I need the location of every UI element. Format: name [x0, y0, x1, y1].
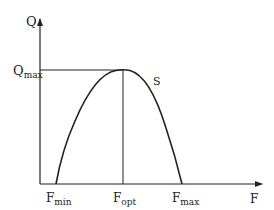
fmax-label: Fmax: [172, 191, 199, 207]
fmin-label: Fmin: [46, 191, 72, 207]
fopt-label: Fopt: [113, 191, 137, 207]
y-axis-label: Q: [26, 14, 37, 29]
curve-label-s: S: [153, 75, 161, 88]
qmax-label: Qmax: [13, 63, 43, 80]
x-axis-label: F: [250, 192, 258, 206]
curve-s: [56, 70, 182, 184]
diagram-canvas: Q Qmax S Fmin Fopt Fmax F: [0, 0, 274, 210]
